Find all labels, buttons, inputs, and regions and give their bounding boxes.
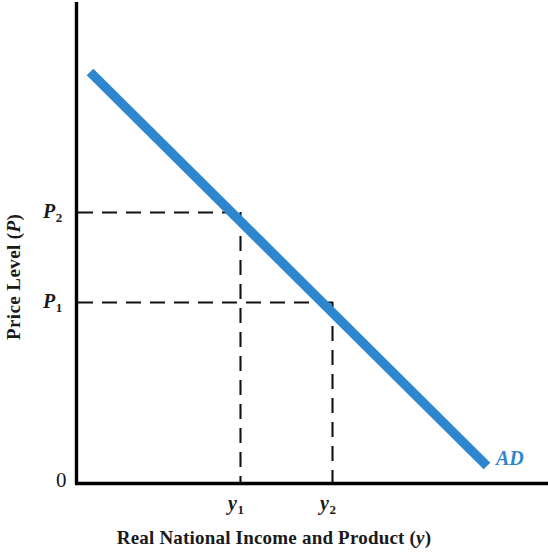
x-tick-label-y1-symbol: y [228,492,237,514]
y-axis-title: Price Level (P) [4,214,23,340]
y-axis-title-close: ) [3,214,24,221]
aggregate-demand-curve [90,72,487,466]
y-tick-label-p2-symbol: P [43,200,55,222]
x-tick-label-y2-symbol: y [320,492,329,514]
y-tick-label-p2-subscript: 2 [56,210,63,225]
x-axis-title: Real National Income and Product (y) [0,528,548,547]
y-tick-label-p1: P1 [43,291,62,311]
y-axis-title-text: Price Level ( [3,232,24,340]
x-axis-title-symbol: y [416,527,425,548]
x-tick-label-y2-subscript: 2 [329,502,336,517]
curve-label-ad: AD [496,448,524,468]
chart-canvas [0,0,548,555]
x-axis-title-close: ) [425,527,432,548]
y-tick-label-p1-symbol: P [43,290,55,312]
aggregate-demand-figure: Price Level (P) Real National Income and… [0,0,548,555]
x-tick-label-y1-subscript: 1 [237,502,244,517]
x-axis-title-text: Real National Income and Product ( [117,527,416,548]
y-axis-title-symbol: P [3,220,24,232]
x-tick-label-y1: y1 [228,493,243,513]
x-tick-label-y2: y2 [320,493,335,513]
y-tick-label-p1-subscript: 1 [56,300,63,315]
y-tick-label-p2: P2 [43,201,62,221]
origin-label: 0 [56,470,67,491]
